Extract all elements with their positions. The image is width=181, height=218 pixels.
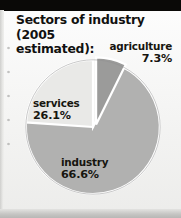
pie-label-agriculture-name: agriculture xyxy=(109,40,172,53)
pie-label-industry-name: industry xyxy=(61,156,108,169)
pie-chart-graphic xyxy=(0,0,181,218)
pie-label-industry: industry 66.6% xyxy=(61,156,108,181)
pie-label-agriculture-value: 7.3% xyxy=(109,53,172,66)
pie-chart-figure: Sectors of industry (2005 estimated): ag… xyxy=(0,0,181,218)
pie-label-services: services 26.1% xyxy=(33,97,79,122)
pie-label-services-name: services xyxy=(33,97,79,110)
pie-label-agriculture: agriculture 7.3% xyxy=(109,40,172,65)
pie-label-services-value: 26.1% xyxy=(33,110,79,123)
pie-label-industry-value: 66.6% xyxy=(61,169,108,182)
scan-bottom-edge xyxy=(0,209,181,218)
